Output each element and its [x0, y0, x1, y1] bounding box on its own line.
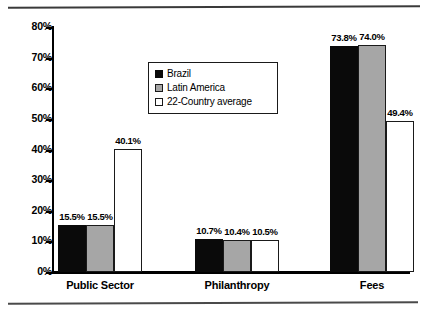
chart-page: 0%10%20%30%40%50%60%70%80% 15.5%15.5%40.… [0, 0, 426, 313]
legend-item-latin-america: Latin America [155, 81, 271, 94]
legend-item-22-country-average: 22-Country average [155, 95, 271, 108]
gray-square-icon [155, 84, 163, 92]
black-square-icon [155, 70, 163, 78]
bar-value-label: 40.1% [110, 135, 146, 146]
bar-value-label: 10.5% [247, 226, 283, 237]
chart-legend: Brazil Latin America 22-Country average [148, 62, 278, 114]
bar-value-label: 49.4% [382, 107, 418, 118]
bar [195, 239, 223, 272]
legend-item-brazil: Brazil [155, 67, 271, 80]
legend-label: 22-Country average [167, 96, 252, 107]
category-label: Public Sector [36, 279, 164, 291]
bar [330, 46, 358, 272]
bar-value-label: 15.5% [82, 211, 118, 222]
y-axis-tick-mark [46, 272, 52, 274]
legend-label: Latin America [167, 82, 225, 93]
category-label: Philanthropy [173, 279, 301, 291]
legend-label: Brazil [167, 68, 191, 79]
bar [114, 149, 142, 272]
bar [223, 240, 251, 272]
bar-value-label: 74.0% [354, 31, 390, 42]
bar [386, 121, 414, 272]
bar [86, 225, 114, 272]
bar [358, 45, 386, 272]
white-square-icon [155, 98, 163, 106]
bar [58, 225, 86, 272]
category-label: Fees [308, 279, 426, 291]
bar [251, 240, 279, 272]
bar-chart: 0%10%20%30%40%50%60%70%80% 15.5%15.5%40.… [0, 0, 426, 313]
